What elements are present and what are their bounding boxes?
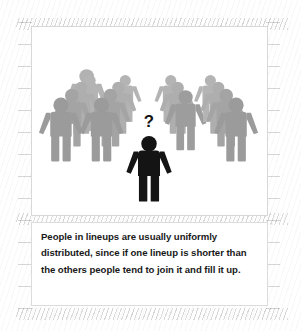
question-mark-icon: ? bbox=[144, 112, 154, 131]
illustration-frame: ? bbox=[31, 26, 268, 216]
page-ruler-left bbox=[18, 22, 32, 314]
focus-person: ? bbox=[126, 112, 171, 202]
focus-person-figure bbox=[126, 136, 171, 202]
page-ruler-right bbox=[266, 22, 280, 314]
scanned-page: ? People in lineups are usually uniforml… bbox=[0, 0, 301, 331]
caption-text: People in lineups are usually uniformly … bbox=[41, 229, 258, 278]
lineup-3-group bbox=[155, 75, 207, 150]
page-ruled-band-bottom bbox=[16, 308, 288, 320]
lineup-4-group bbox=[194, 75, 258, 161]
crowd-illustration: ? bbox=[32, 27, 267, 215]
caption-frame: People in lineups are usually uniformly … bbox=[31, 222, 268, 306]
